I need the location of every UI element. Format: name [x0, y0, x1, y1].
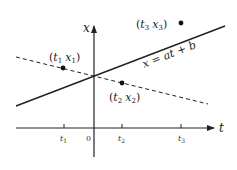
fitted-line — [16, 26, 225, 106]
point-2 — [120, 81, 125, 86]
linear-fit-diagram: t x t1 0 t2 t3 x = at + b (t1x1) (t2x2) … — [0, 0, 237, 170]
point-3 — [179, 21, 184, 26]
point-1-label: (t1x1) — [49, 51, 80, 65]
line-equation: x = at + b — [140, 38, 198, 70]
point-2-label: (t2x2) — [109, 91, 140, 105]
tick-label-t1: t1 — [60, 134, 67, 144]
point-3-label: (t3x3) — [136, 18, 167, 32]
origin-label: 0 — [86, 134, 91, 143]
point-1 — [61, 66, 66, 71]
t-axis-label: t — [219, 121, 224, 135]
x-axis-label: x — [83, 21, 90, 35]
tick-label-t3: t3 — [178, 134, 185, 144]
tick-label-t2: t2 — [118, 134, 125, 144]
